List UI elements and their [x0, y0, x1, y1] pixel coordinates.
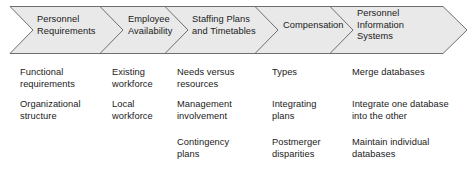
detail-item: Functional requirements	[20, 66, 108, 91]
detail-item: Management involvement	[177, 98, 267, 123]
detail-item: Postmerger disparities	[272, 136, 348, 161]
detail-item: Types	[272, 66, 348, 78]
detail-item: Organizational structure	[20, 98, 108, 123]
detail-item: Local workforce	[112, 98, 174, 123]
stage-label-employee-availability: Employee Availability	[128, 14, 190, 37]
stage-label-personnel-requirements: Personnel Requirements	[37, 14, 103, 37]
stage-label-staffing-plans-and-timetables: Staffing Plans and Timetables	[192, 14, 282, 37]
detail-columns: Functional requirements Organizational s…	[0, 60, 475, 173]
chevron-process-diagram: Personnel Requirements Employee Availabi…	[0, 0, 475, 173]
detail-item: Integrating plans	[272, 98, 348, 123]
process-banner: Personnel Requirements Employee Availabi…	[0, 0, 475, 60]
detail-item: Maintain individual databases	[352, 136, 470, 161]
stage-label-personnel-information-systems: Personnel Information Systems	[357, 8, 429, 43]
detail-item: Existing workforce	[112, 66, 174, 91]
detail-item: Merge databases	[352, 66, 470, 78]
detail-item: Needs versus resources	[177, 66, 267, 91]
detail-item: Integrate one database into the other	[352, 98, 470, 123]
stage-label-compensation: Compensation	[283, 20, 357, 32]
detail-item: Contingency plans	[177, 136, 267, 161]
